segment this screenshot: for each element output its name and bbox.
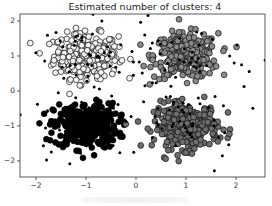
x-tick-label: 0	[134, 181, 139, 190]
x-tick-label: −1	[80, 181, 91, 190]
cluster-points	[27, 13, 145, 104]
cluster-points	[138, 16, 240, 103]
y-tick-label: −1	[4, 121, 15, 130]
y-tick-label: 1	[10, 51, 15, 60]
cluster-points	[123, 76, 233, 172]
x-tick-label: 2	[234, 181, 239, 190]
y-tick-label: 0	[10, 86, 15, 95]
figure-caption	[82, 197, 188, 203]
axes-frame	[20, 14, 265, 177]
y-tick-label: 2	[10, 16, 15, 25]
x-tick-label: −2	[30, 181, 41, 190]
y-tick-label: −2	[4, 156, 15, 165]
cluster-points	[36, 95, 127, 166]
scatter-plot: −2−1012−2−1012	[0, 0, 272, 206]
plot-area	[6, 0, 267, 172]
x-tick-label: 1	[184, 181, 189, 190]
